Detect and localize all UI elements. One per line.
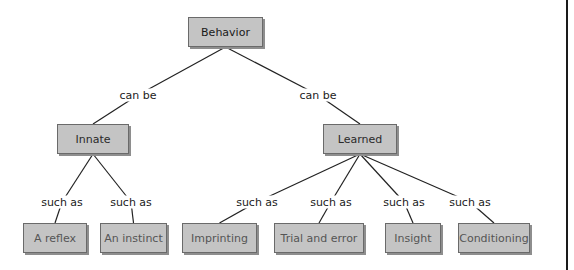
node-learned: Learned — [323, 124, 397, 154]
link-label-such-as: such as — [108, 196, 154, 209]
concept-map: Behavior Innate Learned A reflex An inst… — [0, 0, 574, 270]
link-label-can-be: can be — [297, 89, 338, 102]
node-insight: Insight — [385, 223, 441, 253]
link-label-such-as: such as — [234, 196, 280, 209]
link-label-such-as: such as — [381, 196, 427, 209]
node-a-reflex: A reflex — [23, 223, 87, 253]
node-an-instinct: An instinct — [100, 223, 167, 253]
node-trial-and-error: Trial and error — [274, 223, 364, 253]
node-imprinting: Imprinting — [182, 223, 257, 253]
link-label-can-be: can be — [117, 89, 158, 102]
link-label-such-as: such as — [447, 196, 493, 209]
page-edge-rule — [566, 0, 568, 270]
link-label-such-as: such as — [39, 196, 85, 209]
node-behavior: Behavior — [188, 17, 263, 47]
link-label-such-as: such as — [308, 196, 354, 209]
node-conditioning: Conditioning — [458, 223, 530, 253]
node-innate: Innate — [57, 124, 129, 154]
